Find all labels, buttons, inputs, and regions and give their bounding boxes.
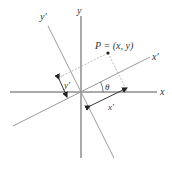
- theta-arc: [101, 82, 103, 92]
- projection-to-x-prime: [108, 53, 125, 87]
- x-prime-axis-label: x′: [151, 51, 159, 62]
- y-axis-label: y: [76, 5, 82, 16]
- y-prime-ext-line: [57, 76, 62, 78]
- rotated-axes-diagram: x y x′ y′ P = (x, y) y′ x′ θ: [0, 0, 172, 169]
- y-prime-axis-label: y′: [39, 11, 47, 22]
- x-axis-label: x: [159, 86, 165, 97]
- angle-label: θ: [105, 82, 110, 92]
- projection-to-y-prime: [62, 53, 108, 76]
- point-label: P = (x, y): [94, 40, 134, 52]
- point-p: [106, 51, 109, 54]
- x-prime-measure-label: x′: [107, 102, 115, 112]
- y-prime-measure-label: y′: [63, 80, 71, 90]
